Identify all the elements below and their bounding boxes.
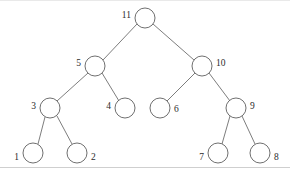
diagram-canvas: 1151034691278 — [0, 0, 290, 172]
tree-edges — [38, 24, 255, 144]
tree-node-label-5: 5 — [76, 58, 81, 68]
tree-node-label-1: 1 — [14, 152, 19, 162]
tree-edge-n10-n9 — [209, 73, 230, 101]
tree-node-1[interactable] — [23, 143, 43, 163]
tree-edge-n9-n7 — [222, 116, 230, 144]
tree-node-9[interactable] — [226, 98, 246, 118]
tree-node-label-8: 8 — [274, 152, 279, 162]
tree-node-5[interactable] — [85, 56, 105, 76]
tree-node-label-10: 10 — [216, 58, 226, 68]
tree-node-label-2: 2 — [91, 152, 96, 162]
tree-node-label-6: 6 — [174, 104, 179, 114]
tree-edge-n11-n5 — [103, 24, 137, 60]
tree-node-2[interactable] — [67, 143, 87, 163]
tree-node-label-4: 4 — [106, 101, 111, 111]
tree-edge-n10-n6 — [167, 73, 195, 101]
tree-node-labels: 1151034691278 — [14, 10, 279, 162]
tree-node-label-3: 3 — [31, 101, 36, 111]
tree-node-10[interactable] — [192, 56, 212, 76]
tree-node-7[interactable] — [208, 143, 228, 163]
tree-edge-n3-n2 — [57, 116, 72, 144]
binary-tree-figure: 1151034691278 — [0, 0, 290, 172]
tree-node-label-9: 9 — [250, 101, 255, 111]
tree-edge-n3-n1 — [38, 117, 45, 144]
tree-node-11[interactable] — [135, 8, 155, 28]
tree-node-4[interactable] — [115, 98, 135, 118]
tree-edge-n5-n3 — [57, 73, 88, 101]
tree-node-label-7: 7 — [199, 152, 204, 162]
tree-edge-n11-n10 — [153, 24, 194, 60]
tree-edge-n9-n8 — [242, 116, 255, 144]
tree-node-8[interactable] — [250, 143, 270, 163]
tree-node-3[interactable] — [40, 98, 60, 118]
tree-node-label-11: 11 — [122, 10, 131, 20]
tree-node-6[interactable] — [150, 98, 170, 118]
tree-edge-n5-n4 — [102, 73, 119, 101]
tree-nodes — [23, 8, 270, 163]
